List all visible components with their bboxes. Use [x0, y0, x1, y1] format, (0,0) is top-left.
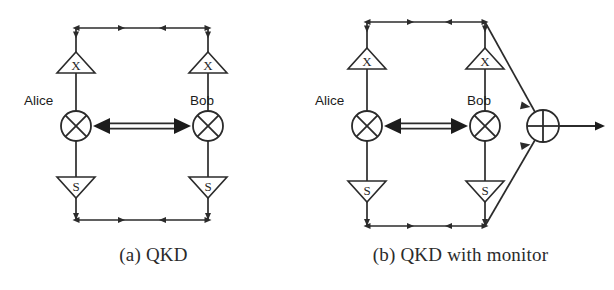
bob-label-a: Bob: [190, 93, 214, 108]
panel-qkd: X S X: [0, 0, 307, 290]
monitor-output-arrow: [559, 122, 605, 131]
panel-qkd-with-monitor: X S X S: [307, 0, 614, 290]
bob-gate-x: X: [466, 48, 504, 69]
caption-panel-a: (a) QKD: [0, 244, 307, 266]
alice-gate-x: X: [57, 52, 95, 73]
bob-mixer: [193, 111, 223, 141]
alice-label-b: Alice: [315, 93, 344, 108]
caption-panel-b: (b) QKD with monitor: [307, 244, 614, 266]
quantum-channel-a: [93, 118, 191, 134]
alice-gate-s: S: [57, 177, 95, 198]
svg-text:S: S: [363, 183, 370, 198]
bob-gate-s: S: [466, 181, 504, 202]
bob-label-b: Bob: [467, 93, 491, 108]
qkd-diagram-b: X S X S: [307, 0, 614, 244]
svg-text:X: X: [71, 58, 81, 73]
alice-label-a: Alice: [24, 93, 53, 108]
svg-text:S: S: [72, 179, 79, 194]
alice-mixer: [352, 111, 382, 141]
monitor-adder: [527, 110, 559, 142]
alice-gate-x: X: [348, 48, 386, 69]
svg-text:X: X: [203, 58, 213, 73]
qkd-diagram-a: X S X: [0, 0, 307, 244]
svg-text:S: S: [204, 179, 211, 194]
bob-gate-s: S: [189, 177, 227, 198]
svg-text:X: X: [480, 54, 490, 69]
svg-text:S: S: [481, 183, 488, 198]
bob-mixer: [470, 111, 500, 141]
quantum-channel-b: [384, 118, 468, 134]
alice-mixer: [61, 111, 91, 141]
svg-text:X: X: [362, 54, 372, 69]
alice-gate-s: S: [348, 181, 386, 202]
bob-gate-x: X: [189, 52, 227, 73]
figure-root: X S X: [0, 0, 614, 290]
